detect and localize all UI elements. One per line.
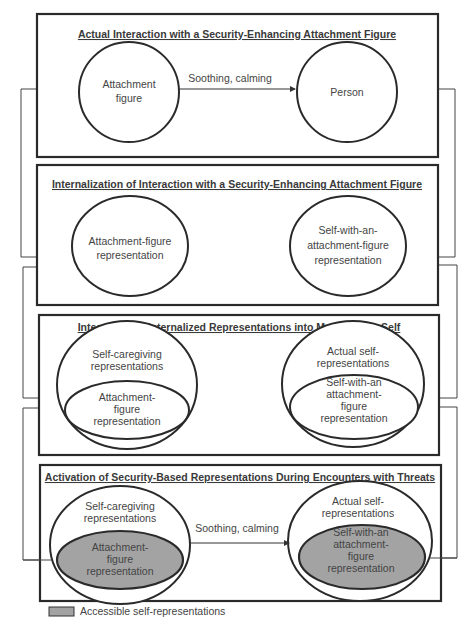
arrow-label: Soothing, calming xyxy=(195,522,279,534)
inner-label: figure xyxy=(114,403,140,415)
legend-swatch xyxy=(49,607,74,616)
inner-label: figure xyxy=(341,400,367,412)
outer-label: representations xyxy=(317,357,389,369)
panel-internalization: Internalization of Interaction with a Se… xyxy=(37,165,438,305)
panel-activation: Activation of Security-Based Representat… xyxy=(40,465,441,604)
arrow-label: Soothing, calming xyxy=(188,72,272,84)
inner-label: Attachment- xyxy=(92,541,149,553)
inner-label: attachment- xyxy=(326,388,382,400)
inner-label: Self-with-an xyxy=(333,526,389,538)
node-label: figure xyxy=(116,92,142,104)
panel-title: Actual Interaction with a Security-Enhan… xyxy=(78,28,396,40)
inner-label: figure xyxy=(107,553,133,565)
panel-title: Internalization of Interaction with a Se… xyxy=(52,178,422,190)
inner-label: representation xyxy=(86,565,153,577)
outer-label: Self-caregiving xyxy=(92,348,162,360)
inner-label: representation xyxy=(320,412,387,424)
outer-label: representations xyxy=(91,360,163,372)
inner-label: Attachment- xyxy=(99,391,156,403)
inner-label: representation xyxy=(327,562,394,574)
node-label: Person xyxy=(330,86,363,98)
inner-label: representation xyxy=(93,415,160,427)
legend-label: Accessible self-representations xyxy=(80,605,225,617)
attachment-model-diagram: Actual Interaction with a Security-Enhan… xyxy=(0,0,476,629)
panel-title: Activation of Security-Based Representat… xyxy=(45,471,435,483)
outer-label: Actual self- xyxy=(327,345,379,357)
panel-integration: Integration of Internalized Representati… xyxy=(39,315,439,455)
outer-label: representations xyxy=(84,512,156,524)
outer-label: representations xyxy=(322,507,394,519)
node-label: Attachment-figure xyxy=(89,235,172,247)
node-label: representation xyxy=(314,254,381,266)
node-label: attachment-figure xyxy=(307,239,389,251)
outer-label: Self-caregiving xyxy=(85,500,155,512)
node-label: Attachment xyxy=(102,78,155,90)
inner-label: Self-with-an xyxy=(326,376,382,388)
inner-label: figure xyxy=(348,550,374,562)
panel-actual-interaction: Actual Interaction with a Security-Enhan… xyxy=(37,14,438,157)
outer-label: Actual self- xyxy=(332,495,384,507)
node-label: Self-with-an- xyxy=(319,224,378,236)
node-label: representation xyxy=(96,249,163,261)
inner-label: attachment- xyxy=(333,538,389,550)
legend: Accessible self-representations xyxy=(49,605,225,617)
